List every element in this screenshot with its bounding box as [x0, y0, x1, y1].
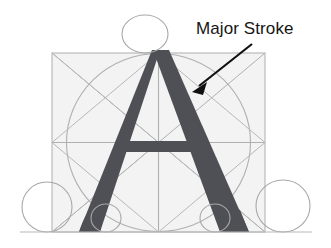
letter-a-construction-figure: Major Stroke — [0, 0, 331, 248]
annotation-label: Major Stroke — [196, 19, 294, 38]
letter-a-crossbar — [112, 141, 203, 152]
